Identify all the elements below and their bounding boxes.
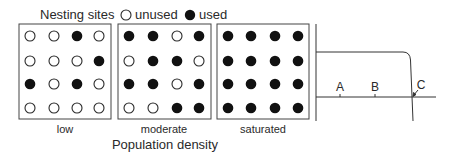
unused-site-icon [94, 31, 104, 41]
unused-site-icon [148, 103, 158, 113]
used-site-icon [246, 56, 257, 67]
unused-site-icon [124, 103, 134, 113]
point-b-label: B [371, 80, 379, 94]
used-site-icon [72, 31, 83, 42]
panel-moderate: moderate [118, 24, 211, 135]
used-site-icon [270, 103, 281, 114]
panel-label: saturated [240, 123, 286, 135]
unused-site-icon [25, 56, 35, 66]
used-site-icon [223, 31, 234, 42]
used-site-icon [246, 103, 257, 114]
used-site-icon [293, 31, 304, 42]
used-site-icon [270, 56, 281, 67]
legend-unused-label: unused [135, 7, 178, 22]
unused-site-icon [49, 31, 59, 41]
site-grid [124, 31, 205, 114]
used-site-icon [94, 56, 105, 67]
unused-site-icon [25, 31, 35, 41]
unused-site-icon [172, 31, 182, 41]
panel-saturated: saturated [217, 24, 309, 135]
unused-site-icon [49, 103, 59, 113]
panel-low: low [19, 24, 111, 135]
unused-circle-icon [121, 10, 131, 20]
used-site-icon [124, 79, 135, 90]
unused-site-icon [172, 79, 182, 89]
used-site-icon [293, 79, 304, 90]
used-site-icon [172, 103, 183, 114]
used-site-icon [223, 56, 234, 67]
used-site-icon [148, 56, 159, 67]
used-site-icon [270, 31, 281, 42]
point-a-label: A [336, 80, 344, 94]
used-site-icon [172, 56, 183, 67]
used-site-icon [293, 56, 304, 67]
unused-site-icon [194, 56, 204, 66]
legend: Nesting sites unused used [40, 7, 227, 22]
unused-site-icon [72, 56, 82, 66]
unused-site-icon [94, 103, 104, 113]
unused-site-icon [49, 79, 59, 89]
population-density-label: Population density [112, 137, 219, 152]
panel-label: low [57, 123, 74, 135]
unused-site-icon [94, 79, 104, 89]
unused-site-icon [72, 103, 82, 113]
used-site-icon [223, 79, 234, 90]
used-site-icon [25, 79, 36, 90]
point-c-label: C [417, 78, 426, 92]
used-site-icon [148, 79, 159, 90]
unused-site-icon [124, 56, 134, 66]
nesting-sites-diagram: Nesting sites unused used low moderate s… [0, 0, 450, 155]
used-site-icon [194, 31, 205, 42]
used-site-icon [148, 31, 159, 42]
used-site-icon [124, 31, 135, 42]
density-graph [316, 24, 436, 121]
used-site-icon [270, 79, 281, 90]
site-grid [25, 31, 105, 113]
unused-site-icon [49, 56, 59, 66]
used-site-icon [246, 31, 257, 42]
legend-title: Nesting sites [40, 7, 115, 22]
panel-label: moderate [141, 123, 187, 135]
used-site-icon [293, 103, 304, 114]
used-circle-icon [185, 10, 195, 20]
site-grid [223, 31, 304, 114]
used-site-icon [194, 79, 205, 90]
used-site-icon [194, 103, 205, 114]
capacity-curve [316, 52, 413, 121]
used-site-icon [223, 103, 234, 114]
used-site-icon [246, 79, 257, 90]
used-site-icon [72, 79, 83, 90]
legend-used-label: used [199, 7, 227, 22]
unused-site-icon [25, 103, 35, 113]
